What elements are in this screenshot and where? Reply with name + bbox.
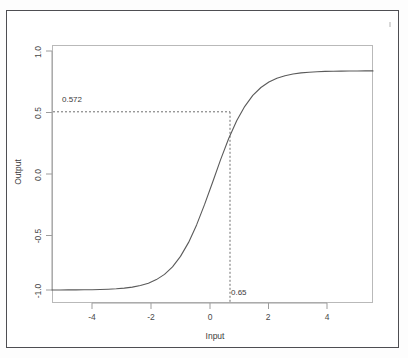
y-axis [46, 51, 52, 290]
tanh-curve [52, 71, 373, 290]
y-axis-title: Output [13, 148, 23, 196]
x-tick-label-neg2: -2 [141, 312, 161, 322]
y-tick-label-1: 1.0 [33, 41, 43, 63]
y-tick-label-neg1: -1.0 [33, 280, 43, 302]
y-tick-label-neg0_5: -0.5 [33, 225, 43, 247]
y-tick-label-0_5: 0.5 [33, 102, 43, 124]
x-tick-label-2: 2 [258, 312, 278, 322]
x-tick-label-4: 4 [317, 312, 337, 322]
annotation-label-input: 0.65 [231, 288, 247, 297]
x-tick-label-neg4: -4 [82, 312, 102, 322]
x-axis-title: Input [185, 331, 245, 341]
annotation-label-output: 0.572 [62, 95, 82, 104]
x-axis [92, 303, 327, 309]
x-tick-label-0: 0 [200, 312, 220, 322]
chart-vector-layer [0, 0, 408, 358]
y-tick-label-0: 0.0 [33, 164, 43, 186]
figure-page: 1.0 0.5 0.0 -0.5 -1.0 -4 -2 0 2 4 Input … [0, 0, 408, 358]
